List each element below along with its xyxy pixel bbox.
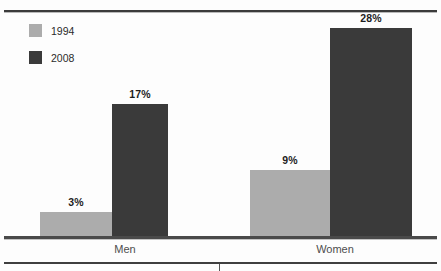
footer-band bbox=[0, 261, 441, 271]
x-axis-line-shadow bbox=[4, 239, 437, 240]
bar-value-women-1994: 9% bbox=[250, 154, 330, 166]
bar-value-women-2008: 28% bbox=[330, 12, 412, 24]
bar-men-1994[interactable] bbox=[40, 212, 112, 238]
bar-value-men-1994: 3% bbox=[40, 196, 112, 208]
bar-women-2008[interactable] bbox=[330, 28, 412, 238]
plot-area: 3% 17% 9% 28% bbox=[0, 0, 441, 238]
category-label-women: Women bbox=[295, 243, 375, 255]
chart-page: 1994 2008 3% 17% 9% 28% Men Women bbox=[0, 0, 441, 271]
footer-column-divider bbox=[219, 264, 220, 271]
bar-women-1994[interactable] bbox=[250, 170, 330, 238]
footer-divider-rule bbox=[4, 262, 437, 264]
category-label-men: Men bbox=[85, 243, 165, 255]
bar-value-men-2008: 17% bbox=[112, 88, 168, 100]
bar-men-2008[interactable] bbox=[112, 104, 168, 238]
